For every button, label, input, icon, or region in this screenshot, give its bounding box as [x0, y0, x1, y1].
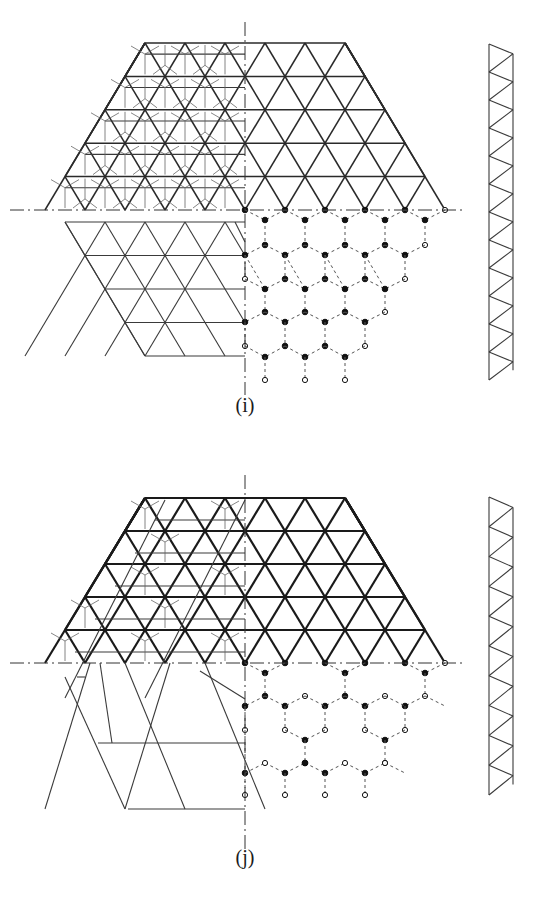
member-line [365, 312, 385, 322]
diagonal-member [345, 43, 365, 76]
truss-diagonal [489, 656, 513, 675]
member-line [385, 279, 405, 289]
member-line [265, 210, 285, 220]
panel-i-label: (i) [236, 394, 255, 417]
member-line [245, 696, 265, 706]
diagonal-member [45, 663, 90, 809]
diagonal-member [405, 177, 425, 210]
diagonal-member [225, 222, 245, 256]
member-line [345, 663, 365, 673]
truss-diagonal [489, 128, 513, 138]
member-line [365, 245, 385, 255]
node-filled [342, 217, 348, 223]
truss-diagonal [489, 184, 513, 194]
diagonal-member [345, 498, 365, 531]
diagonal-member [205, 663, 265, 809]
member-line [285, 730, 305, 740]
node-filled [302, 217, 308, 223]
member-line [365, 210, 385, 220]
diagonal-member [125, 663, 170, 809]
support-node-open [322, 792, 327, 797]
member-line [285, 210, 305, 220]
diagonal-member [305, 498, 405, 663]
member-line [285, 255, 305, 289]
member-line [325, 696, 345, 706]
member-line [245, 245, 265, 255]
truss-diagonal [489, 627, 513, 646]
diagonal-member [25, 222, 105, 356]
diagonal-member [265, 43, 365, 210]
member-line [405, 245, 425, 255]
member-line [265, 346, 285, 357]
truss-diagonal [489, 776, 513, 795]
member-line [345, 245, 365, 255]
member-line [305, 279, 325, 289]
member-line [325, 279, 345, 289]
truss-diagonal [489, 586, 513, 596]
truss-diagonal [489, 597, 513, 616]
member-line [345, 210, 365, 220]
truss-diagonal [489, 156, 513, 166]
member-line [285, 245, 305, 255]
member-line [425, 210, 445, 220]
diagonal-member [405, 630, 425, 663]
truss-diagonal [489, 212, 513, 222]
member-line [285, 279, 305, 289]
support-node-open [342, 377, 347, 382]
member-line [305, 245, 325, 255]
diagonal-member [225, 43, 325, 210]
truss-diagonal [489, 507, 513, 526]
node-filled [262, 286, 268, 292]
member-line [245, 210, 265, 220]
truss-diagonal [489, 706, 513, 716]
support-node-open [262, 760, 267, 765]
support-node-open [282, 792, 287, 797]
truss-diagonal [489, 352, 513, 362]
member-line [325, 763, 345, 773]
truss-diagonal [489, 646, 513, 656]
truss-diagonal [489, 735, 513, 745]
truss-diagonal [489, 250, 513, 268]
member-line [285, 312, 305, 322]
diagonal-member [225, 498, 325, 663]
member-line [385, 730, 405, 740]
member-line [265, 245, 285, 255]
node-filled [382, 286, 388, 292]
member-line [385, 696, 405, 706]
secondary-diagonal [145, 500, 245, 698]
truss-diagonal [489, 557, 513, 567]
member-line [305, 210, 325, 220]
truss-diagonal [489, 567, 513, 586]
member-line [365, 279, 385, 289]
diagonal-member [235, 222, 245, 242]
support-node-open [362, 792, 367, 797]
diagonal-member [165, 498, 265, 663]
member-line [405, 663, 425, 673]
truss-diagonal [489, 278, 513, 296]
truss-diagonal [489, 616, 513, 626]
member-line [425, 696, 445, 706]
truss-diagonal [489, 537, 513, 556]
member-line [265, 312, 285, 322]
member-line [305, 312, 325, 322]
member-line [365, 730, 385, 740]
side-elevation-truss [489, 497, 513, 795]
member-line [245, 312, 265, 322]
diagram-canvas [0, 0, 540, 907]
member-line [245, 279, 265, 289]
member-line [345, 346, 365, 357]
member-line [365, 696, 385, 706]
member-line [245, 346, 265, 357]
node-filled [422, 217, 428, 223]
member-line [285, 346, 305, 357]
member-line [325, 312, 345, 322]
truss-diagonal [489, 334, 513, 352]
member-line [325, 255, 345, 289]
support-node-open [342, 760, 347, 765]
member-line [325, 245, 345, 255]
truss-diagonal [489, 100, 513, 110]
truss-diagonal [489, 746, 513, 765]
truss-diagonal [489, 44, 513, 54]
diagonal-member [245, 43, 345, 210]
truss-diagonal [489, 72, 513, 82]
